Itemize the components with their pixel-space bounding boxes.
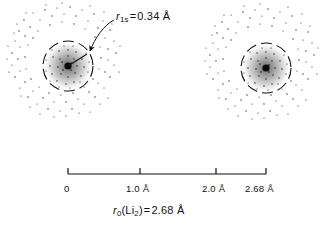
radius-subscript: 1s [120,15,129,24]
radius-leader-line [90,20,114,51]
radius-unit: Å [163,10,171,22]
scale-bar [68,168,266,174]
radius-value: 0.34 [137,10,159,22]
caption-equals: = [144,204,151,216]
scale-tick-label-3: 2.68 Å [245,184,274,194]
figure-caption: r0(Li2)=2.68 Å [113,205,184,218]
radius-equals: = [130,10,137,22]
radius-annotation: r1s=0.34 Å [116,11,170,24]
electron-density-figure: r1s=0.34 Å 0 1.0 Å 2.0 Å 2.68 Å r0(Li2)=… [0,0,328,229]
nucleus-right [262,64,269,71]
scale-tick-label-2: 2.0 Å [202,184,225,194]
scale-tick-label-1: 1.0 Å [126,184,149,194]
caption-unit: Å [177,204,185,216]
caption-species-open: (Li [121,204,134,216]
caption-species-close: ) [139,204,143,216]
caption-value: 2.68 [151,204,173,216]
scale-tick-label-0: 0 [64,184,69,194]
figure-canvas [0,0,328,229]
lithium-atom-right [204,3,318,119]
lithium-atom-left [6,2,120,117]
